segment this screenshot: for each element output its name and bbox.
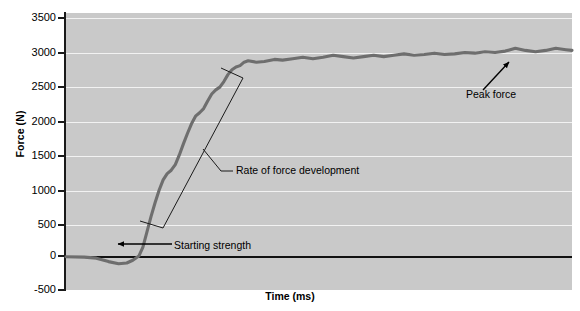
annotation-rate-of-force-development: Rate of force development <box>236 164 359 176</box>
rate-of-force-development-bracket <box>140 68 243 228</box>
annotation-layer <box>0 0 580 311</box>
peak-force-leader <box>483 62 509 90</box>
annotation-starting-strength: Starting strength <box>174 239 251 251</box>
rate-of-force-development-leader <box>203 149 233 171</box>
annotation-peak-force: Peak force <box>466 88 516 100</box>
force-time-chart-figure: 3500 3000 2500 2000 1500 1000 500 0 -500… <box>0 0 580 311</box>
